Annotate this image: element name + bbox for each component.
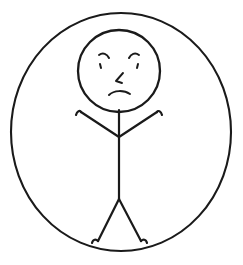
left-leg	[98, 199, 119, 241]
right-arm	[119, 112, 157, 137]
left-arm	[81, 112, 119, 137]
right-hand	[157, 111, 162, 115]
nose-icon	[116, 73, 123, 83]
mouth-frown-icon	[109, 91, 130, 95]
left-eyebrow-icon	[99, 54, 109, 58]
right-leg	[119, 199, 141, 241]
drawing-canvas	[0, 0, 243, 265]
left-hand	[76, 111, 81, 115]
head-circle	[78, 30, 160, 112]
left-eye-icon	[100, 64, 101, 68]
right-eye-icon	[137, 64, 138, 68]
right-eyebrow-icon	[129, 54, 139, 58]
stick-figure-illustration	[0, 0, 243, 265]
left-foot	[92, 240, 98, 243]
right-foot	[141, 240, 147, 243]
outer-circle	[11, 13, 231, 251]
